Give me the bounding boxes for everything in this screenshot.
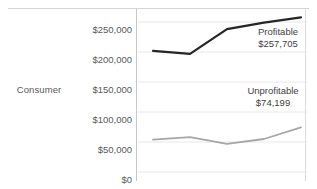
y-axis-tick-label: $150,000 <box>92 85 132 95</box>
y-axis-tick-label: $0 <box>121 175 132 185</box>
annotation-profitable: Profitable $257,705 <box>239 26 317 50</box>
annotation-unprofitable-value: $74,199 <box>229 97 317 109</box>
y-axis-tick-label: $100,000 <box>92 115 132 125</box>
annotation-unprofitable-name: Unprofitable <box>229 85 317 97</box>
y-axis-tick-label: $50,000 <box>98 145 132 155</box>
series-line-unprofitable <box>153 127 301 143</box>
annotation-profitable-value: $257,705 <box>239 38 317 50</box>
annotation-profitable-name: Profitable <box>239 26 317 38</box>
annotation-unprofitable: Unprofitable $74,199 <box>229 85 317 109</box>
y-axis-tick-label: $200,000 <box>92 55 132 65</box>
y-axis-tick-label: $250,000 <box>92 25 132 35</box>
y-axis-labels: $250,000 $200,000 $150,000 $100,000 $50,… <box>62 8 134 180</box>
chart-container: Consumer $250,000 $200,000 $150,000 $100… <box>0 0 317 189</box>
